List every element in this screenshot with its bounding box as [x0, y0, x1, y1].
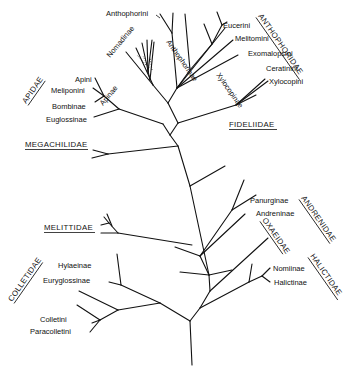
taxon-label-exomalopsini: Exomalopsini — [248, 49, 293, 58]
clade-label-anthophorinae: Anthophorinae — [164, 38, 199, 83]
taxon-label-halictinae: Halictinae — [274, 278, 307, 287]
clade-label-nomadinae: Nomadinae — [105, 24, 137, 59]
clade-label-xylocopinae: Xylocopinae — [214, 71, 245, 110]
family-label-megachilidae: MEGACHILIDAE — [25, 140, 88, 149]
taxon-label-meliponini: Meliponini — [51, 86, 85, 95]
taxon-label-bombinae: Bombinae — [52, 102, 86, 111]
taxon-label-euryglossinae: Euryglossinae — [43, 276, 90, 285]
family-label-andrenidae: ANDRENIDAE — [299, 194, 337, 243]
taxon-label-nomiinae: Nomiinae — [273, 264, 305, 273]
taxon-label-ceratinini: Ceratinini — [266, 64, 298, 73]
family-label-colletidae: COLLETIDAE — [6, 256, 43, 303]
family-label-apidae: APIDAE — [20, 75, 45, 105]
clade-label-apinae: Apinae — [98, 84, 120, 108]
taxon-labels: Anthophorini Eucerini Melitomini Exomalo… — [30, 9, 307, 336]
taxon-label-paracolletini: Paracolletini — [30, 327, 71, 336]
taxon-label-anthophorini: Anthophorini — [106, 9, 148, 18]
taxon-label-euglossinae: Euglossinae — [46, 115, 87, 124]
taxon-label-andreninae: Andreninae — [256, 209, 294, 218]
family-label-melittidae: MELITTIDAE — [44, 223, 93, 232]
taxon-label-eucerini: Eucerini — [223, 21, 250, 30]
taxon-label-apini: Apini — [75, 75, 92, 84]
taxon-label-panurginae: Panurginae — [250, 196, 288, 205]
tree-branches — [77, 12, 270, 365]
taxon-label-melitomini: Melitomini — [235, 34, 269, 43]
family-label-fideliidae: FIDELIIDAE — [229, 120, 274, 129]
taxon-label-xylocopini: Xylocopini — [269, 77, 304, 86]
family-label-halictidae: HALICTIDAE — [308, 252, 343, 297]
taxon-label-hylaeinae: Hylaeinae — [58, 261, 91, 270]
taxon-label-colletini: Colletini — [40, 315, 67, 324]
family-label-oxaeidae: OXAEIDAE — [260, 216, 292, 256]
phylogenetic-tree: ANTHOPHORIDAE APIDAE FIDELIIDAE MEGACHIL… — [0, 0, 352, 372]
